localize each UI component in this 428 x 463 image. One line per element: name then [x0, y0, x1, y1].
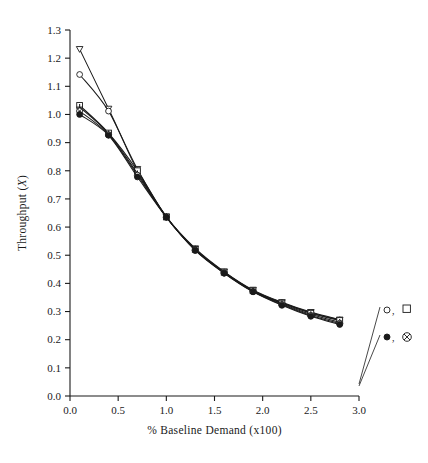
y-tick-label: 1.2	[47, 52, 61, 64]
throughput-line-chart: 0.00.10.20.30.40.50.60.70.80.91.01.11.21…	[0, 0, 428, 463]
y-tick-label: 0.6	[47, 221, 61, 233]
data-point-marker-circle-filled	[337, 322, 343, 328]
y-tick-label: 0.4	[47, 277, 61, 289]
y-tick-label: 0.0	[47, 390, 61, 402]
x-tick-label: 0.0	[63, 404, 77, 416]
data-point-marker-circle-filled	[279, 302, 285, 308]
x-tick-label: 2.0	[256, 404, 270, 416]
square-open-icon	[403, 305, 410, 312]
x-tick-label: 2.5	[304, 404, 318, 416]
data-point-marker-circle-filled	[106, 132, 112, 138]
data-point-marker-circle-filled	[221, 270, 227, 276]
legend-upper-label: ,	[392, 305, 395, 316]
legend-lower-label: ,	[392, 332, 395, 343]
x-tick-label: 0.5	[111, 404, 125, 416]
circle-open-icon	[384, 307, 390, 313]
y-axis-title: Throughput (X)	[16, 175, 29, 251]
y-tick-label: 0.5	[47, 249, 61, 261]
y-tick-label: 0.2	[47, 333, 61, 345]
y-tick-label: 0.8	[47, 165, 61, 177]
data-point-marker-circle-filled	[135, 174, 141, 180]
chart-background	[0, 0, 428, 463]
circle-filled-icon	[384, 334, 390, 340]
y-tick-label: 0.1	[47, 362, 61, 374]
y-tick-label: 0.3	[47, 305, 61, 317]
data-point-marker-circle-open	[106, 108, 112, 114]
data-point-marker-circle-filled	[250, 289, 256, 295]
y-tick-label: 1.1	[47, 80, 61, 92]
x-tick-label: 1.5	[208, 404, 222, 416]
data-point-marker-circle-filled	[308, 313, 314, 319]
figure-container: 0.00.10.20.30.40.50.60.70.80.91.01.11.21…	[0, 0, 428, 463]
x-axis-title: % Baseline Demand (x100)	[147, 424, 282, 437]
data-point-marker-circle-open	[77, 72, 83, 78]
circle-x-icon	[403, 333, 412, 342]
y-tick-label: 0.9	[47, 136, 61, 148]
data-point-marker-circle-filled	[192, 248, 198, 254]
y-tick-label: 1.3	[47, 24, 61, 36]
x-tick-label: 3.0	[352, 404, 366, 416]
y-tick-label: 1.0	[47, 108, 61, 120]
data-point-marker-circle-filled	[77, 112, 83, 118]
y-tick-label: 0.7	[47, 193, 61, 205]
x-tick-label: 1.0	[159, 404, 173, 416]
data-point-marker-circle-filled	[163, 214, 169, 220]
